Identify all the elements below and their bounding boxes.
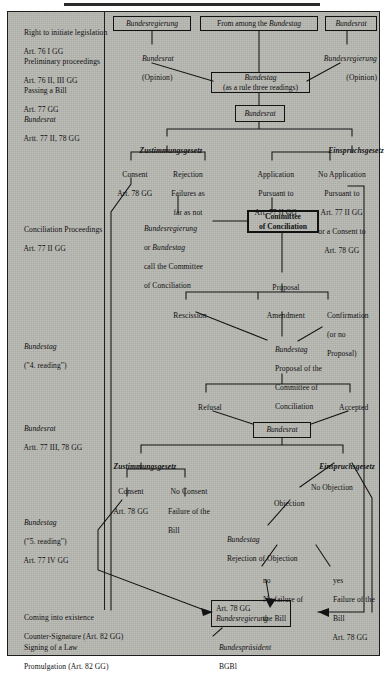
box-bundesrat-third: Bundesrat <box>253 422 311 438</box>
left-label-bundesrat-77-2-78: Bundesrat Artt. 77 II, 78 GG <box>16 106 80 153</box>
label-refusal: Refusal <box>180 394 232 422</box>
label-bundestag-proposal-of-committee: Bundestag Proposal of the Committee of C… <box>267 336 322 421</box>
label-objection: Objection <box>266 490 305 518</box>
label-rescission: Rescission <box>157 302 215 330</box>
top-rule-divider <box>64 3 320 6</box>
box-from-among-the-bundestag: From among the Bundestag <box>200 16 318 31</box>
left-label-bundestag-4-reading: Bundestag ("4. reading") <box>16 333 67 380</box>
box-bundesrat-top: Bundesrat <box>325 16 377 31</box>
label-amendment: Amendment <box>250 302 314 330</box>
box-bundesrat-second: Bundesrat <box>235 105 285 122</box>
left-label-bundestag-5-reading: Bundestag ("5. reading") Art. 77 IV GG <box>16 509 69 575</box>
box-committee-of-conciliation: Committee of Conciliation <box>247 210 319 233</box>
label-bundespraesident-bgbl: Bundespräsident BGBl <box>211 634 271 675</box>
box-bundesregierung-top: Bundesregierung <box>113 16 191 31</box>
label-bundesrat-opinion: Bundesrat (Opinion) <box>134 45 174 92</box>
label-zustimmungsgesetz-2: Zustimmungsgesetz <box>91 453 191 481</box>
label-confirmation: Confirmation (or no Proposal) <box>319 302 369 368</box>
label-yes-branch: yes Failure of the Bill Art. 78 GG <box>325 567 375 652</box>
left-label-conciliation-proceedings: Conciliation Proceedings Art. 77 II GG <box>16 216 102 263</box>
label-consent-2-article: Art. 78 GG <box>99 498 155 526</box>
left-label-signing-of-a-law: Signing of a Law Promulgation (Art. 82 G… <box>16 634 109 675</box>
label-proposal: Proposal <box>253 274 311 302</box>
label-failure-of-the-bill: Failure of the Bill <box>160 498 210 545</box>
box-bundestag-three-readings: Bundestag (as a rule three readings) <box>211 72 310 93</box>
label-call-the-committee: Bundesregierung or Bundestag call the Co… <box>136 215 203 300</box>
label-no-objection: No Objection <box>303 474 353 502</box>
left-label-bundesrat-77-3-78: Bundesrat Artt. 77 III, 78 GG <box>16 415 82 462</box>
label-bundestag-rejection-of-objection: Bundestag Rejection of Objection <box>219 526 298 573</box>
label-accepted: Accepted <box>323 394 377 422</box>
label-consent-1: Consent Art. 78 GG <box>103 161 159 208</box>
box-art78-bundesregierung: Art. 78 GG Bundesregierung <box>211 600 291 627</box>
